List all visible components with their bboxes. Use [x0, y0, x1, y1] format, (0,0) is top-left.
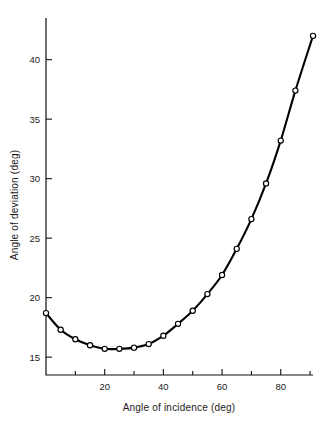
x-axis-ticks	[75, 369, 310, 375]
y-tick-label: 15	[29, 352, 40, 363]
data-point-marker	[263, 181, 268, 186]
data-point-marker	[310, 33, 315, 38]
x-tick-label: 20	[99, 381, 110, 392]
data-point-marker	[293, 88, 298, 93]
x-axis-tick-labels: 20406080	[99, 381, 286, 392]
deviation-vs-incidence-chart: 152025303540 20406080 Angle of incidence…	[0, 0, 330, 422]
data-point-marker	[146, 341, 151, 346]
x-axis-title: Angle of incidence (deg)	[123, 402, 236, 413]
x-tick-label: 80	[275, 381, 286, 392]
y-tick-label: 20	[29, 292, 40, 303]
data-point-marker	[73, 337, 78, 342]
data-point-marker	[43, 311, 48, 316]
data-point-marker	[87, 343, 92, 348]
data-point-marker	[175, 321, 180, 326]
data-point-marker	[131, 345, 136, 350]
y-tick-label: 35	[29, 114, 40, 125]
x-tick-label: 60	[217, 381, 228, 392]
data-point-marker	[234, 246, 239, 251]
data-point-marker	[190, 308, 195, 313]
data-series-markers	[43, 33, 315, 351]
y-tick-label: 40	[29, 54, 40, 65]
y-tick-label: 25	[29, 233, 40, 244]
data-point-marker	[161, 333, 166, 338]
data-point-marker	[219, 272, 224, 277]
y-tick-label: 30	[29, 173, 40, 184]
figure-container: 152025303540 20406080 Angle of incidence…	[0, 0, 330, 422]
data-point-marker	[102, 346, 107, 351]
y-axis-title: Angle of deviation (deg)	[9, 150, 20, 260]
data-point-marker	[249, 217, 254, 222]
data-series-line	[46, 36, 313, 349]
x-tick-label: 40	[158, 381, 169, 392]
data-point-marker	[205, 291, 210, 296]
data-point-marker	[58, 327, 63, 332]
data-point-marker	[117, 346, 122, 351]
y-axis-tick-labels: 152025303540	[29, 54, 40, 363]
data-point-marker	[278, 138, 283, 143]
